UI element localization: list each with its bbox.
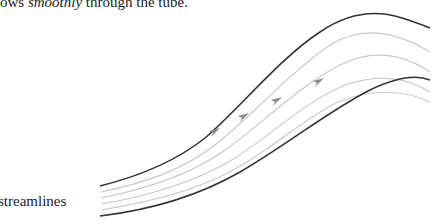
tube-bottom-boundary bbox=[100, 77, 430, 216]
streamline-2 bbox=[101, 55, 430, 198]
flow-tube-diagram bbox=[0, 0, 436, 224]
streamlines bbox=[101, 33, 430, 210]
streamline-4 bbox=[101, 92, 430, 210]
arrow-icon bbox=[313, 78, 324, 87]
streamline-1 bbox=[101, 33, 430, 192]
streamlines-label: streamlines bbox=[0, 193, 66, 210]
arrow-icon bbox=[271, 97, 282, 106]
